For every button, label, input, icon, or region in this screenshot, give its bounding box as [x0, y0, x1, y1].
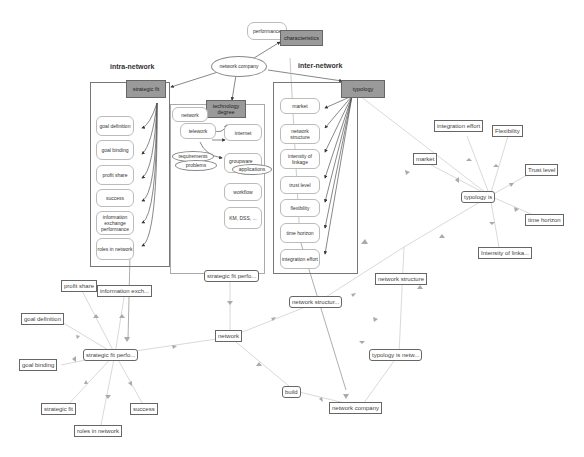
profit-share-graph-node[interactable]: profit share — [61, 280, 97, 292]
workflow-node[interactable]: workflow — [224, 183, 262, 201]
information-exchange-node[interactable]: information exchange performance — [96, 211, 134, 235]
success-graph-node[interactable]: success — [130, 403, 158, 415]
time-horizon-node[interactable]: time horizon — [280, 223, 320, 243]
intensity-of-linkage-node[interactable]: intensity of linkage — [280, 149, 320, 169]
goal-definition-graph-node[interactable]: goal definition — [21, 313, 64, 325]
network-company-graph-node[interactable]: network company — [329, 402, 382, 414]
telework-node[interactable]: telework — [180, 123, 216, 139]
typology-node[interactable]: typology — [341, 80, 385, 98]
network-structure-graph-node[interactable]: network structure — [375, 273, 427, 285]
build-node[interactable]: build — [282, 386, 301, 398]
typology-is-netw-node[interactable]: typology is netw... — [369, 349, 422, 361]
roles-in-network-graph-node[interactable]: roles in network — [74, 425, 122, 437]
strategic-fit-graph-node[interactable]: strategic fit — [41, 403, 76, 415]
typology-is-node[interactable]: typology is — [461, 191, 495, 203]
heading-intra-network: intra-network — [110, 63, 154, 70]
integration-effort-graph-node[interactable]: integration effort — [434, 120, 483, 132]
goal-definition-node[interactable]: goal definition — [96, 116, 134, 136]
market-node[interactable]: market — [280, 98, 320, 114]
profit-share-node[interactable]: profit share — [96, 165, 134, 185]
strategic-fit-perfo-node[interactable]: strategic fit perfo... — [83, 349, 138, 361]
integration-effort-node[interactable]: integration effort — [280, 249, 320, 269]
km-dss-node[interactable]: KM, DSS, ... — [224, 207, 262, 229]
strategic-fit-node[interactable]: strategic fit — [126, 80, 166, 98]
characteristics-node[interactable]: characteristics — [280, 30, 323, 46]
applications-ellipse[interactable]: applications — [232, 164, 272, 175]
trust-level-node[interactable]: trust level — [280, 176, 320, 194]
goal-binding-node[interactable]: goal binding — [96, 140, 134, 160]
trust-level-graph-node[interactable]: Trust level — [525, 164, 558, 176]
market-graph-node[interactable]: market — [413, 153, 437, 165]
information-exch-graph-node[interactable]: information exch... — [97, 285, 152, 297]
strategic-fit-perfo-top-node[interactable]: strategic fit perfo... — [204, 270, 259, 282]
internet-node[interactable]: internet — [224, 124, 262, 141]
network-company-ellipse[interactable]: network company — [211, 56, 267, 77]
network-structure-node[interactable]: network structure — [280, 124, 320, 144]
intensity-graph-node[interactable]: Intensity of linka... — [478, 247, 532, 259]
goal-binding-graph-node[interactable]: goal binding — [19, 359, 57, 371]
roles-in-network-node[interactable]: roles in network — [96, 238, 134, 260]
technology-degree-node[interactable]: technology degree — [206, 100, 246, 118]
heading-inter-network: inter-network — [298, 62, 342, 69]
success-node[interactable]: success — [96, 189, 134, 207]
flexibility-node[interactable]: flexibility — [280, 199, 320, 217]
network-structur-graph-node[interactable]: network structur... — [289, 296, 342, 308]
tech-network-node[interactable]: network — [172, 107, 208, 122]
network-graph-node[interactable]: network — [215, 330, 242, 342]
time-horizon-graph-node[interactable]: time horizon — [525, 214, 564, 226]
problems-ellipse[interactable]: problems — [175, 160, 217, 171]
flexibility-graph-node[interactable]: Flexibility — [492, 125, 523, 137]
